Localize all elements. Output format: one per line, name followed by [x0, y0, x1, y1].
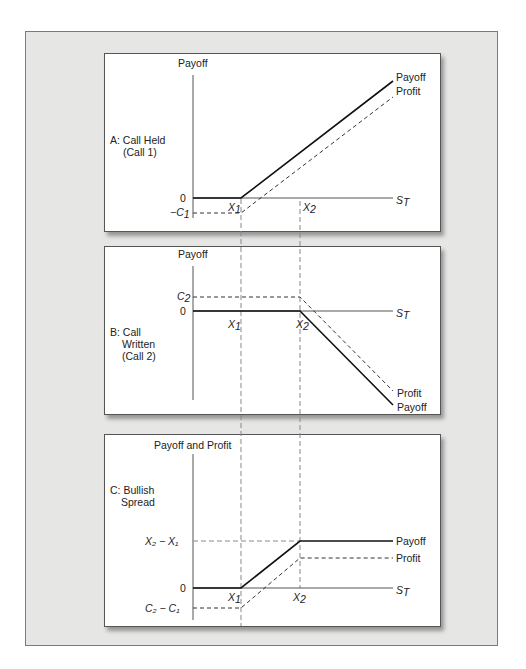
panel-c-y-axis-label: Payoff and Profit [154, 439, 232, 451]
panel-c-x-axis-label: ST [396, 584, 411, 598]
panel-a-title: A: Call Held [110, 134, 166, 146]
panel-b-x2-label: X2 [295, 318, 309, 332]
panel-a-x2-label: X2 [302, 201, 316, 215]
panel-a-y-axis-label: Payoff [178, 57, 208, 69]
panel-a-subtitle: (Call 1) [123, 146, 157, 158]
panel-b-x1-label: X1 [227, 318, 241, 332]
panel-a-neg-c1-label: −C1 [170, 206, 190, 220]
panel-b-c2-label: C2 [177, 290, 191, 304]
payoff-diagram: Payoff ST A: Call Held (Call 1) 0 −C1 X1… [0, 0, 526, 669]
panel-b-chart: Payoff ST B: Call Written (Call 2) 0 C2 … [110, 248, 427, 413]
panel-a-zero-label: 0 [180, 192, 186, 204]
panel-c-chart: Payoff and Profit ST C: Bullish Spread X… [110, 439, 426, 620]
panel-c-title: C: Bullish [110, 484, 155, 496]
panel-a-legend-profit: Profit [396, 85, 421, 97]
panel-b-zero-label: 0 [180, 305, 186, 317]
panel-c-c2-minus-c1-label: C₂ − C₁ [145, 602, 180, 614]
panel-b-subtitle-2: (Call 2) [122, 350, 156, 362]
panel-c-zero-label: 0 [180, 582, 186, 594]
panel-c-x2-label: X2 [292, 591, 306, 605]
panel-c-x2-minus-x1-label: X₂ − X₁ [144, 535, 179, 547]
panel-b-y-axis-label: Payoff [178, 248, 208, 260]
panel-b-subtitle-1: Written [122, 338, 155, 350]
panel-a-chart: Payoff ST A: Call Held (Call 1) 0 −C1 X1… [110, 57, 426, 220]
panel-b-payoff-line [193, 311, 393, 405]
panel-b-x-axis-label: ST [396, 307, 411, 321]
panel-c-legend-profit: Profit [396, 552, 421, 564]
panel-c-legend-payoff: Payoff [396, 535, 426, 547]
panel-b-legend-profit: Profit [397, 387, 422, 399]
panel-a-legend-payoff: Payoff [396, 71, 426, 83]
panel-b-title: B: Call [110, 326, 141, 338]
panel-a-payoff-line [193, 81, 393, 198]
panel-b-legend-payoff: Payoff [397, 401, 427, 413]
panel-c-x1-label: X1 [227, 591, 241, 605]
panel-c-subtitle: Spread [121, 496, 155, 508]
panel-a-x-axis-label: ST [396, 194, 411, 208]
panel-a-profit-line [193, 97, 393, 213]
